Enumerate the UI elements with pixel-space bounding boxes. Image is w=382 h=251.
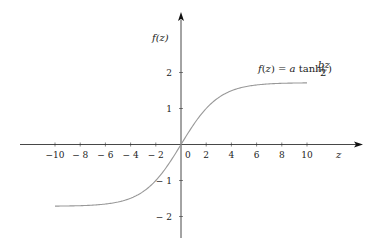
y-axis-arrow-icon (178, 12, 184, 21)
x-axis-label: z (335, 149, 342, 160)
y-tick-label: 1 (166, 104, 172, 114)
x-tick-label: 6 (254, 150, 260, 160)
fraction-denominator: 2 (320, 67, 326, 78)
x-tick-label: 8 (279, 150, 285, 160)
y-axis-label: f(z) (151, 32, 169, 43)
x-tick-label: 0 (185, 150, 191, 160)
tanh-plot: −10− 8− 6− 4− 2024681021− 1− 2 z f(z) f(… (0, 0, 382, 251)
equation-label: f(z) = a tanh( bz 2 ) (257, 59, 332, 78)
svg-text:f(z) = a tanh(: f(z) = a tanh( (257, 63, 326, 74)
x-tick-label: − 8 (72, 150, 88, 160)
x-tick-label: − 6 (97, 150, 113, 160)
equation-close: ) (328, 63, 332, 74)
axes (20, 12, 363, 238)
x-tick-label: 2 (203, 150, 209, 160)
y-tick-label: − 2 (156, 212, 172, 222)
x-tick-label: − 2 (148, 150, 164, 160)
y-tick-label: 2 (166, 68, 172, 78)
x-tick-label: −10 (46, 150, 65, 160)
x-tick-label: 4 (229, 150, 235, 160)
x-tick-label: − 4 (123, 150, 139, 160)
x-tick-label: 10 (301, 150, 313, 160)
